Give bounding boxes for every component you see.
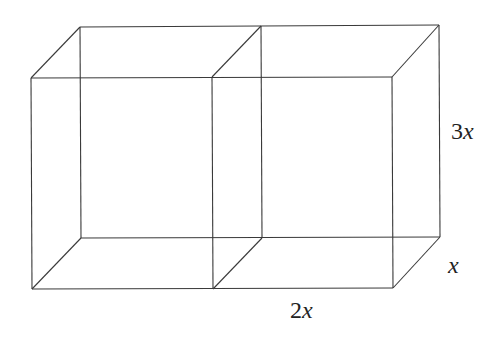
back-top-edge (80, 25, 439, 27)
width-label: 2x (290, 298, 313, 322)
depth-top-right (392, 25, 439, 77)
back-face (80, 25, 440, 238)
depth-bottom-left (32, 238, 81, 289)
front-face (31, 77, 393, 289)
height-label-variable: x (463, 118, 474, 144)
back-bottom-edge (81, 237, 440, 238)
box-diagram (0, 0, 500, 341)
depth-label-variable: x (448, 252, 459, 278)
front-right-edge (392, 77, 393, 288)
depth-bottom-right (393, 237, 440, 288)
height-label-coefficient: 3 (451, 118, 463, 144)
depth-edges (31, 25, 440, 289)
width-label-coefficient: 2 (290, 297, 302, 323)
width-label-variable: x (302, 297, 313, 323)
back-left-edge (80, 27, 81, 238)
depth-bottom-mid (213, 238, 262, 289)
front-mid-edge (212, 77, 213, 289)
back-right-edge (439, 25, 440, 237)
height-label: 3x (451, 119, 474, 143)
depth-label: x (448, 253, 459, 277)
depth-top-left (31, 27, 80, 78)
back-mid-edge (261, 26, 262, 238)
depth-top-mid (212, 26, 261, 77)
front-left-edge (31, 78, 32, 289)
